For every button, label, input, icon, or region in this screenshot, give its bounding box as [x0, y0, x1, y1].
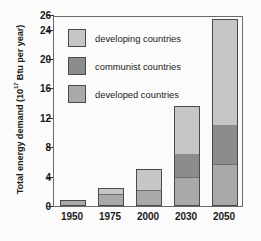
y-tick-label: 26 [40, 10, 51, 21]
x-tick-label-1950: 1950 [61, 211, 83, 222]
bar-segment-developing [213, 20, 237, 125]
bar-segment-communist [175, 154, 199, 178]
bar-segment-developed [137, 191, 161, 205]
bar-2050[interactable] [212, 19, 238, 206]
legend-swatch-developing [68, 29, 86, 47]
y-tick-label: 4 [45, 171, 51, 182]
bar-segment-developed [175, 178, 199, 205]
y-axis-title-prefix: Total energy demand (10 [15, 89, 25, 194]
bar-2000[interactable] [136, 169, 162, 206]
legend-label: developed countries [95, 89, 179, 100]
legend-swatch-developed [68, 85, 86, 103]
y-tick-label: 8 [45, 142, 51, 153]
y-tick-label: 16 [40, 83, 51, 94]
bar-segment-developing [175, 107, 199, 154]
legend-item-developing[interactable]: developing countries [68, 26, 181, 50]
x-tick-label-2000: 2000 [137, 211, 159, 222]
legend-label: communist countries [95, 61, 181, 72]
x-tick-label-2030: 2030 [175, 211, 197, 222]
y-tick-label: 0 [45, 201, 51, 212]
bar-segment-developed [99, 195, 123, 205]
bar-segment-communist [213, 125, 237, 166]
bar-segment-developed [213, 165, 237, 205]
bar-segment-developing [137, 170, 161, 191]
y-axis-title-exponent: 17 [13, 83, 19, 89]
bar-2030[interactable] [174, 106, 200, 206]
energy-demand-bar-chart: Total energy demand (1017 Btu per year) … [0, 0, 261, 241]
chart-legend: developing countriescommunist countriesd… [68, 26, 181, 110]
legend-item-communist[interactable]: communist countries [68, 54, 181, 78]
legend-label: developing countries [95, 33, 181, 44]
bar-1950[interactable] [60, 200, 86, 206]
bar-segment-developed [61, 201, 85, 205]
bar-1975[interactable] [98, 188, 124, 206]
x-tick-label-2050: 2050 [213, 211, 235, 222]
y-tick-label: 24 [40, 24, 51, 35]
y-axis-title-suffix: Btu per year) [15, 25, 25, 83]
legend-swatch-communist [68, 57, 86, 75]
y-tick-label: 12 [40, 112, 51, 123]
legend-item-developed[interactable]: developed countries [68, 82, 181, 106]
x-tick-label-1975: 1975 [99, 211, 121, 222]
y-axis-title: Total energy demand (1017 Btu per year) [13, 15, 24, 205]
y-tick-label: 20 [40, 54, 51, 65]
